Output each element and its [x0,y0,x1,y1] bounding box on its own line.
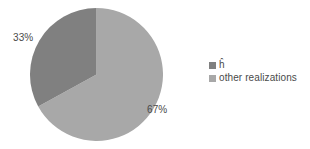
legend-label-other-realizations: other realizations [219,73,297,83]
pie-plot-area [30,8,163,141]
data-label-33: 33% [13,33,33,43]
legend-item-h[interactable]: ĥ [209,60,297,70]
data-label-67: 67% [147,105,167,115]
pie-chart-figure: 33% 67% ĥ other realizations [0,0,310,149]
legend: ĥ other realizations [209,60,297,83]
legend-item-other-realizations[interactable]: other realizations [209,73,297,83]
pie-svg [30,8,163,141]
legend-label-h: ĥ [219,60,225,70]
legend-swatch-icon-other-realizations [209,75,216,82]
legend-swatch-icon-h [209,62,216,69]
